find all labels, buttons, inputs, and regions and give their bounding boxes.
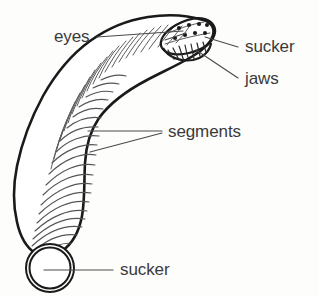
eye-spot [205,23,209,27]
eye-spot [203,31,207,35]
leader-jaws [196,50,238,78]
eye-spot [197,22,201,26]
label-jaws: jaws [244,69,279,88]
leader-segments-lower [90,133,162,152]
diagram-canvas: eyes sucker jaws segments sucker [0,0,319,296]
eye-spot [187,23,191,27]
eye-spot [193,31,197,35]
eye-spot [177,26,181,30]
label-sucker-tail: sucker [120,260,170,279]
label-segments: segments [168,122,241,141]
posterior-sucker [26,244,74,292]
posterior-sucker-inner [30,248,71,289]
label-eyes: eyes [54,27,90,46]
label-sucker-head: sucker [245,37,295,56]
leech-diagram: eyes sucker jaws segments sucker [0,0,319,296]
